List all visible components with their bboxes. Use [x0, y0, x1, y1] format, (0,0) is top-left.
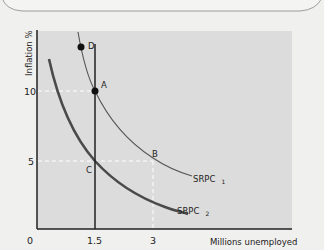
point-a-marker	[92, 88, 99, 95]
x-tick-3: 3	[150, 235, 156, 246]
point-d-marker	[78, 44, 85, 51]
point-d-label: D	[88, 41, 95, 51]
y-axis-label: Inflation %	[24, 30, 34, 76]
phillips-curve-chart: D A B C SRPC1 SRPC2 10 5 0 1.5 3 Million…	[0, 0, 324, 250]
y-tick-10: 10	[24, 86, 36, 97]
origin-label: 0	[27, 235, 33, 246]
point-c-label: C	[86, 165, 92, 175]
frame-border	[2, 0, 322, 11]
x-axis-label: Millions unemployed	[210, 237, 297, 247]
point-a-label: A	[101, 80, 107, 90]
y-tick-5: 5	[28, 156, 34, 167]
point-b-label: B	[152, 149, 158, 159]
x-tick-1-5: 1.5	[87, 235, 102, 246]
